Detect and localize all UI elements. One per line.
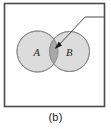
set-a-label: A xyxy=(33,47,41,58)
figure-panel-b: A B (b) xyxy=(0,0,111,129)
figure-caption: (b) xyxy=(0,110,111,124)
set-b-label: B xyxy=(66,47,73,58)
